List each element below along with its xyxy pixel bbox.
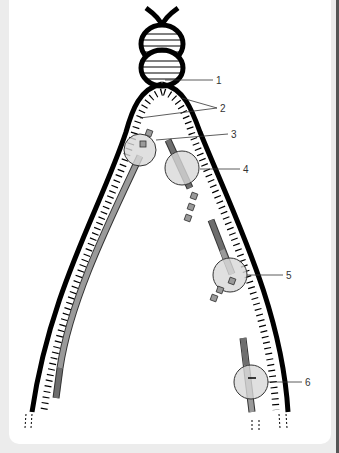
enzyme-primase — [165, 151, 199, 185]
label-1: 1 — [216, 75, 222, 86]
enzyme-helicase — [124, 134, 156, 166]
label-3: 3 — [231, 129, 237, 140]
double-helix — [141, 8, 183, 86]
label-5: 5 — [286, 270, 292, 281]
label-6: 6 — [305, 377, 311, 388]
label-4: 4 — [243, 164, 249, 175]
label-2: 2 — [220, 103, 226, 114]
replication-fork-diagram: 1 2 3 4 5 6 — [0, 0, 339, 453]
enzyme-ligase — [234, 365, 268, 399]
